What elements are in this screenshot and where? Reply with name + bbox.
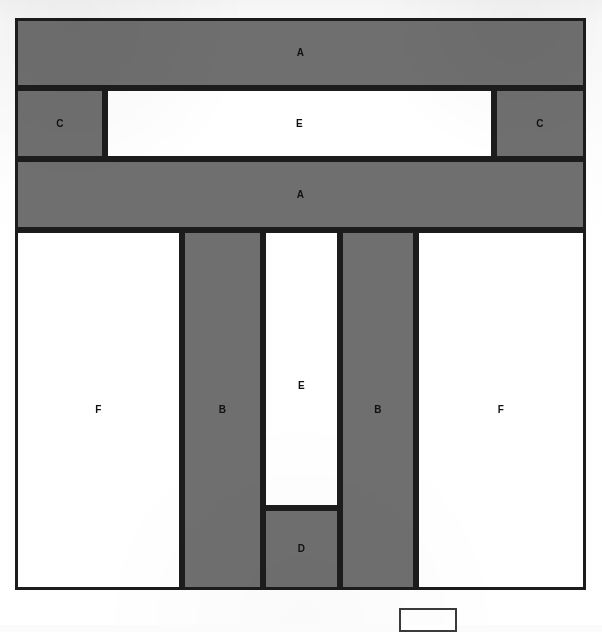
block-f-right[interactable]: F bbox=[416, 230, 586, 590]
block-b-left[interactable]: B bbox=[182, 230, 263, 590]
block-d[interactable]: D bbox=[263, 508, 340, 590]
block-a-top[interactable]: A bbox=[15, 18, 586, 88]
block-label-f-left: F bbox=[95, 405, 102, 415]
block-f-left[interactable]: F bbox=[15, 230, 182, 590]
block-label-f-right: F bbox=[498, 405, 505, 415]
block-label-e-top: E bbox=[296, 119, 303, 129]
block-e-top[interactable]: E bbox=[105, 88, 494, 159]
block-c-left[interactable]: C bbox=[15, 88, 105, 159]
block-label-a-middle: A bbox=[297, 190, 305, 200]
block-label-c-right: C bbox=[536, 119, 544, 129]
block-label-c-left: C bbox=[56, 119, 64, 129]
block-label-e-bottom: E bbox=[298, 381, 305, 391]
block-c-right[interactable]: C bbox=[494, 88, 586, 159]
block-e-bottom[interactable]: E bbox=[263, 230, 340, 508]
block-b-right[interactable]: B bbox=[340, 230, 416, 590]
block-label-d: D bbox=[298, 544, 306, 554]
block-a-middle[interactable]: A bbox=[15, 159, 586, 230]
block-label-b-left: B bbox=[219, 405, 227, 415]
block-label-a-top: A bbox=[297, 48, 305, 58]
legend-swatch[interactable] bbox=[399, 608, 457, 632]
block-label-b-right: B bbox=[374, 405, 382, 415]
